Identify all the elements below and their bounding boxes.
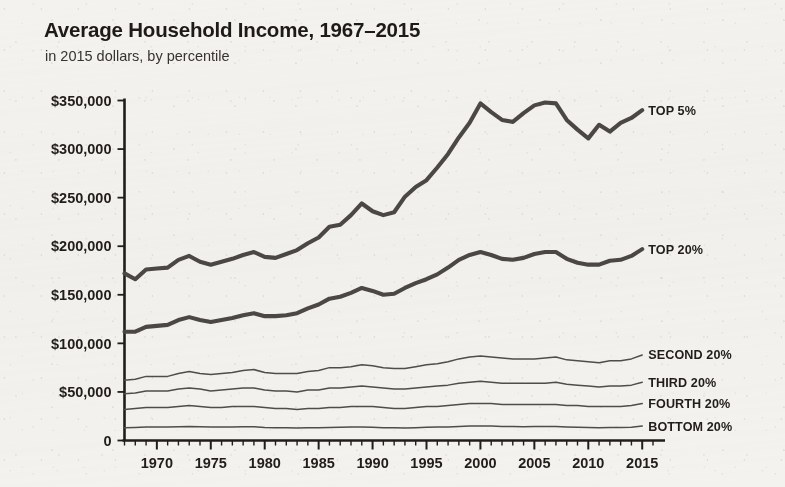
series-label: BOTTOM 20% — [648, 420, 732, 434]
y-axis-tick-label: $50,000 — [59, 384, 111, 400]
series-label: THIRD 20% — [648, 376, 716, 390]
x-axis-tick-label: 2015 — [626, 455, 658, 471]
series-line — [125, 381, 643, 394]
x-axis: 1970197519801985199019952000200520102015 — [123, 441, 666, 471]
series-lines — [125, 102, 643, 428]
chart-header: Average Household Income, 1967–2015 in 2… — [44, 18, 420, 64]
x-axis-tick-label: 1990 — [356, 455, 388, 471]
x-axis-tick-label: 2000 — [464, 455, 496, 471]
series-line — [125, 404, 643, 410]
series-labels: TOP 5%TOP 20%SECOND 20%THIRD 20%FOURTH 2… — [648, 104, 732, 434]
series-line — [125, 355, 643, 380]
x-axis-tick-label: 1985 — [303, 455, 335, 471]
series-line — [125, 426, 643, 428]
series-label: TOP 5% — [648, 104, 696, 118]
y-axis-tick-label: $300,000 — [51, 141, 111, 157]
x-axis-tick-label: 2010 — [572, 455, 604, 471]
x-axis-tick-label: 1995 — [410, 455, 442, 471]
y-axis-tick-label: $100,000 — [51, 336, 111, 352]
x-axis-tick-label: 1970 — [141, 455, 173, 471]
x-axis-tick-label: 1980 — [249, 455, 281, 471]
y-axis-tick-label: $200,000 — [51, 238, 111, 254]
series-label: SECOND 20% — [648, 348, 732, 362]
series-line — [125, 102, 643, 279]
line-chart: 0$50,000$100,000$150,000$200,000$250,000… — [0, 0, 785, 487]
series-label: TOP 20% — [648, 243, 703, 257]
x-axis-tick-label: 2005 — [518, 455, 550, 471]
y-axis: 0$50,000$100,000$150,000$200,000$250,000… — [51, 93, 124, 449]
series-label: FOURTH 20% — [648, 397, 730, 411]
y-axis-tick-label: $250,000 — [51, 190, 111, 206]
y-axis-tick-label: $350,000 — [51, 93, 111, 109]
y-axis-tick-label: 0 — [103, 433, 111, 449]
chart-plot-area: 0$50,000$100,000$150,000$200,000$250,000… — [0, 0, 785, 487]
chart-subtitle: in 2015 dollars, by percentile — [45, 48, 420, 64]
page-title: Average Household Income, 1967–2015 — [44, 18, 420, 42]
x-axis-tick-label: 1975 — [195, 455, 227, 471]
y-axis-tick-label: $150,000 — [51, 287, 111, 303]
